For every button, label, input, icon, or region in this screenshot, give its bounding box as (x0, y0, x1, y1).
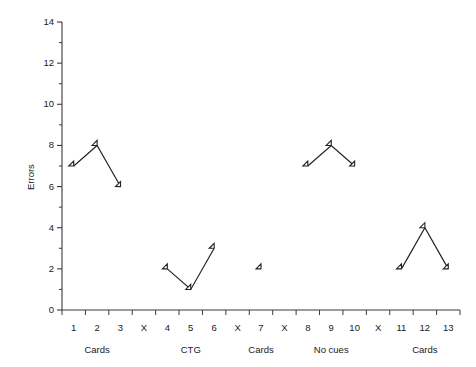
data-point-marker (256, 264, 261, 269)
y-axis-tick-label: 12 (26, 58, 54, 68)
y-axis-tick-label: 0 (26, 305, 54, 315)
y-axis-tick-label: 6 (26, 182, 54, 192)
y-axis-tick-label: 4 (26, 223, 54, 233)
data-point-marker (92, 140, 97, 145)
y-axis-tick-label: 10 (26, 99, 54, 109)
y-axis-tick-label: 2 (26, 264, 54, 274)
x-axis-group-label: No cues (291, 345, 371, 355)
series-line (401, 228, 448, 269)
y-axis-tick-label: 8 (26, 140, 54, 150)
series-line (308, 145, 355, 166)
x-axis-group-label: Cards (57, 345, 137, 355)
data-point-marker (303, 161, 308, 166)
data-point-marker (69, 161, 74, 166)
data-point-marker (162, 264, 167, 269)
data-point-marker (326, 140, 331, 145)
series-line (74, 145, 121, 186)
y-axis-tick-label: 14 (26, 17, 54, 27)
plot-area (0, 0, 476, 367)
chart-figure: Errors 02468101214 123X456X7X8910X111213… (0, 0, 476, 367)
data-point-marker (420, 223, 425, 228)
x-axis-group-label: Cards (221, 345, 301, 355)
data-point-marker (396, 264, 401, 269)
x-axis-group-label: CTG (151, 345, 231, 355)
data-point-marker (209, 243, 214, 248)
x-axis-tick-label: 13 (434, 323, 462, 333)
x-axis-group-label: Cards (385, 345, 465, 355)
series-line (167, 248, 214, 289)
